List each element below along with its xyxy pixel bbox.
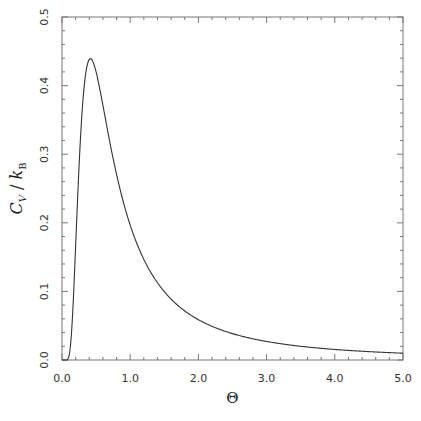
y-axis-title: CV / kB: [7, 162, 28, 214]
y-tick-label: 0.0: [38, 351, 51, 369]
heat-capacity-curve: [62, 59, 403, 360]
x-tick-label: 2.0: [190, 372, 208, 385]
y-tick-label: 0.4: [38, 77, 51, 95]
y-tick-label: 0.2: [38, 214, 51, 232]
y-title-C: C: [7, 202, 26, 214]
y-tick-label: 0.5: [38, 8, 51, 26]
y-tick-label: 0.3: [38, 145, 51, 163]
x-axis-title: Θ: [226, 389, 238, 407]
x-tick-label: 5.0: [394, 372, 412, 385]
x-tick-label: 1.0: [121, 372, 139, 385]
axis-ticks: [62, 17, 403, 360]
y-tick-label: 0.1: [38, 283, 51, 301]
y-title-slash: /: [7, 180, 26, 196]
y-title-sub-B: B: [17, 162, 28, 169]
plot-frame: [62, 17, 403, 360]
x-tick-labels: 0.01.02.03.04.05.0: [53, 372, 412, 385]
x-tick-label: 0.0: [53, 372, 71, 385]
x-tick-label: 4.0: [326, 372, 344, 385]
chart: 0.01.02.03.04.05.0 0.00.10.20.30.40.5 Θ …: [0, 0, 421, 421]
y-title-k: k: [7, 170, 26, 180]
y-tick-labels: 0.00.10.20.30.40.5: [38, 8, 51, 369]
x-tick-label: 3.0: [258, 372, 276, 385]
